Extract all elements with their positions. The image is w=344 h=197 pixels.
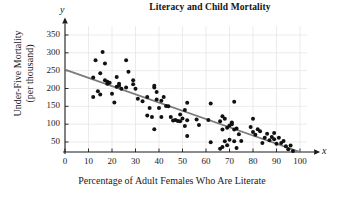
data-point xyxy=(96,89,100,93)
data-point xyxy=(232,139,236,143)
x-tick-label: 80 xyxy=(243,156,263,166)
data-point xyxy=(155,98,159,102)
data-point xyxy=(235,146,239,150)
data-point xyxy=(220,128,224,132)
y-tick-label: 50 xyxy=(34,136,60,146)
data-point xyxy=(265,132,269,136)
data-point xyxy=(260,141,264,145)
x-axis-letter: x xyxy=(322,145,326,156)
data-point xyxy=(103,62,107,66)
data-point xyxy=(267,138,271,142)
y-axis-arrow xyxy=(62,18,68,24)
data-point xyxy=(112,100,116,104)
data-point xyxy=(272,131,276,135)
data-point xyxy=(183,124,187,128)
data-point xyxy=(115,75,119,79)
x-tick-label: 100 xyxy=(290,156,310,166)
data-point xyxy=(131,78,135,82)
data-point xyxy=(110,92,114,96)
y-axis-letter: y xyxy=(60,4,64,15)
data-point xyxy=(220,145,224,149)
data-point xyxy=(237,132,241,136)
x-tick-label: 60 xyxy=(196,156,216,166)
data-point xyxy=(145,114,149,118)
x-tick-label: 90 xyxy=(267,156,287,166)
x-axis-label: Percentage of Adult Females Who Are Lite… xyxy=(22,175,322,186)
x-tick-label: 50 xyxy=(173,156,193,166)
data-point xyxy=(159,115,163,119)
data-point xyxy=(195,118,199,122)
x-tick-label: 70 xyxy=(220,156,240,166)
data-point xyxy=(141,99,145,103)
data-point xyxy=(169,115,173,119)
data-point xyxy=(119,87,123,91)
data-point xyxy=(291,149,295,153)
data-point xyxy=(263,136,267,140)
data-point xyxy=(91,95,95,99)
plot-area xyxy=(65,22,300,152)
data-point xyxy=(136,97,140,101)
data-point xyxy=(183,108,187,112)
data-point xyxy=(223,139,227,143)
data-point xyxy=(145,95,149,99)
data-point xyxy=(277,136,281,140)
scatter-canvas xyxy=(65,22,315,162)
data-point xyxy=(166,104,170,108)
data-point xyxy=(155,90,159,94)
data-point xyxy=(225,143,229,147)
data-point xyxy=(124,85,128,89)
data-point xyxy=(185,101,189,105)
data-point xyxy=(258,129,262,133)
x-axis-arrow xyxy=(314,149,320,155)
x-tick-label: 10 xyxy=(79,156,99,166)
y-tick-label: 100 xyxy=(34,118,60,128)
chart-figure: Literacy and Child Mortality Under-Five … xyxy=(0,0,344,197)
data-point xyxy=(162,95,166,99)
y-axis-label: Under-Five Mortality (per thousand) xyxy=(12,0,35,149)
data-point xyxy=(286,147,290,151)
data-point xyxy=(230,122,234,126)
data-point xyxy=(131,82,135,86)
data-point xyxy=(148,106,152,110)
data-point xyxy=(150,115,154,119)
data-point xyxy=(275,142,279,146)
data-point xyxy=(206,118,210,122)
y-tick-label: 200 xyxy=(34,83,60,93)
y-axis-label-line2: (per thousand) xyxy=(23,0,35,149)
data-point xyxy=(126,70,130,74)
data-point xyxy=(253,133,257,137)
data-point xyxy=(134,87,138,91)
data-point xyxy=(235,126,239,130)
data-point xyxy=(209,101,213,105)
data-point xyxy=(152,85,156,89)
x-tick-label: 30 xyxy=(126,156,146,166)
chart-title: Literacy and Child Mortality xyxy=(120,2,300,12)
y-tick-label: 350 xyxy=(34,29,60,39)
data-point xyxy=(249,125,253,129)
data-point xyxy=(289,144,293,148)
data-point xyxy=(94,58,98,62)
data-point xyxy=(232,100,236,104)
data-point xyxy=(98,71,102,75)
data-point xyxy=(181,116,185,120)
data-point xyxy=(239,139,243,143)
data-point xyxy=(108,81,112,85)
data-point xyxy=(209,140,213,144)
data-point xyxy=(117,84,121,88)
y-tick-label: 300 xyxy=(34,47,60,57)
data-point xyxy=(124,58,128,62)
data-point xyxy=(101,50,105,54)
data-point xyxy=(282,139,286,143)
x-tick-label: 20 xyxy=(102,156,122,166)
y-axis-label-line1: Under-Five Mortality xyxy=(12,0,24,149)
data-point xyxy=(185,118,189,122)
x-tick-label: 0 xyxy=(55,156,75,166)
data-point xyxy=(152,127,156,131)
y-tick-label: 150 xyxy=(34,100,60,110)
y-tick-label: 250 xyxy=(34,65,60,75)
data-point xyxy=(251,117,255,121)
data-point xyxy=(228,138,232,142)
x-tick-label: 40 xyxy=(149,156,169,166)
data-point xyxy=(178,113,182,117)
data-point xyxy=(157,106,161,110)
